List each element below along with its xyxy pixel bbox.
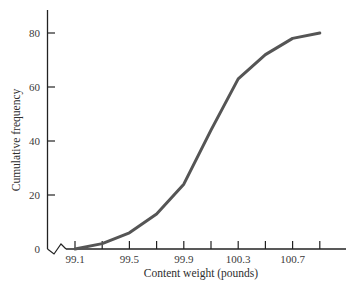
x-tick-label: 99.1 bbox=[65, 253, 84, 265]
cumulative-frequency-chart: 020406080 99.199.599.9100.3100.7 Content… bbox=[0, 0, 352, 293]
cumulative-frequency-line bbox=[75, 33, 320, 249]
x-tick-label: 99.5 bbox=[120, 253, 140, 265]
y-tick-label: 40 bbox=[29, 135, 41, 147]
y-tick-label: 20 bbox=[29, 189, 41, 201]
x-tick-label: 100.7 bbox=[280, 253, 305, 265]
x-tick-label: 99.9 bbox=[174, 253, 194, 265]
x-axis-title: Content weight (pounds) bbox=[144, 267, 259, 280]
y-tick-label: 0 bbox=[35, 243, 41, 255]
y-axis-title: Cumulative frequency bbox=[10, 89, 23, 192]
y-ticks: 020406080 bbox=[29, 27, 55, 255]
x-tick-label: 100.3 bbox=[226, 253, 251, 265]
y-tick-label: 60 bbox=[29, 81, 41, 93]
y-tick-label: 80 bbox=[29, 27, 41, 39]
x-axis-break bbox=[48, 244, 67, 254]
